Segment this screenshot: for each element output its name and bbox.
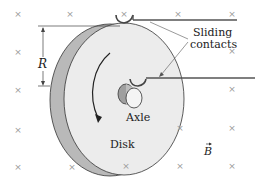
field-into-page-icon: × [68, 163, 76, 172]
field-into-page-icon: × [14, 48, 22, 57]
field-into-page-icon: × [120, 10, 128, 19]
radius-label: R [38, 58, 47, 70]
disk-label: Disk [110, 139, 135, 150]
sliding-contacts-label-line1: Sliding [193, 27, 232, 38]
axle-front [126, 88, 142, 108]
field-into-page-icon: × [14, 86, 22, 95]
field-into-page-icon: × [14, 10, 22, 19]
field-into-page-icon: × [14, 163, 22, 172]
field-into-page-icon: × [122, 162, 130, 171]
field-into-page-icon: × [174, 10, 182, 19]
faraday-disk-diagram: ××××××××××××××××× R Sliding contacts Axl… [0, 0, 270, 184]
field-into-page-icon: × [14, 126, 22, 135]
r-arrow-up-icon [41, 27, 45, 32]
field-into-page-icon: × [228, 124, 236, 133]
field-into-page-icon: × [176, 124, 184, 133]
field-into-page-icon: × [228, 10, 236, 19]
field-into-page-icon: × [228, 85, 236, 94]
axle-label: Axle [126, 112, 150, 123]
sliding-contacts-label-line2: contacts [190, 39, 237, 50]
field-into-page-icon: × [228, 162, 236, 171]
magnetic-field-label: B [204, 146, 212, 157]
field-into-page-icon: × [66, 10, 74, 19]
r-arrow-down-icon [41, 81, 45, 86]
field-into-page-icon: × [176, 162, 184, 171]
